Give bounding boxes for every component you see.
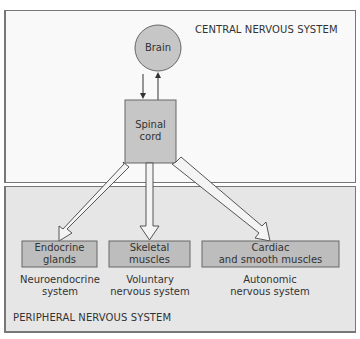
caption-line1: Autonomic [220, 274, 320, 286]
autonomic-caption: Autonomic nervous system [220, 274, 320, 298]
spinal-cord-label-line2: cord [125, 131, 176, 143]
endocrine-label: Endocrine glands [22, 242, 97, 266]
endocrine-label-line1: Endocrine [22, 242, 97, 254]
cns-label: CENTRAL NERVOUS SYSTEM [195, 24, 338, 35]
spinal-to-cardiac-arrow [172, 157, 270, 241]
caption-line1: Neuroendocrine [10, 274, 110, 286]
pns-label: PERIPHERAL NERVOUS SYSTEM [13, 312, 171, 323]
skeletal-label-line1: Skeletal [109, 242, 190, 254]
spinal-to-skeletal-arrow [140, 163, 159, 240]
skeletal-label-line2: muscles [109, 254, 190, 266]
cardiac-label-line1: Cardiac [202, 242, 339, 254]
cardiac-label-line2: and smooth muscles [202, 254, 339, 266]
spinal-cord-label-line1: Spinal [125, 119, 176, 131]
caption-line1: Voluntary [100, 274, 200, 286]
cardiac-label: Cardiac and smooth muscles [202, 242, 339, 266]
endocrine-label-line2: glands [22, 254, 97, 266]
spinal-to-endocrine-arrow [59, 162, 129, 241]
caption-line2: nervous system [100, 286, 200, 298]
skeletal-label: Skeletal muscles [109, 242, 190, 266]
spinal-cord-label: Spinal cord [125, 119, 176, 143]
caption-line2: system [10, 286, 110, 298]
neuroendocrine-caption: Neuroendocrine system [10, 274, 110, 298]
voluntary-caption: Voluntary nervous system [100, 274, 200, 298]
brain-label: Brain [135, 42, 181, 54]
caption-line2: nervous system [220, 286, 320, 298]
